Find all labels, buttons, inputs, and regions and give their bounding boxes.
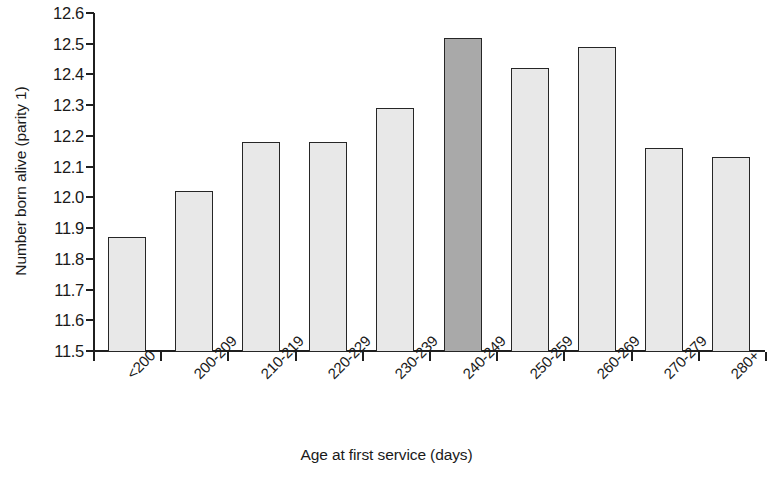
y-axis-tick-label: 11.5 (54, 342, 84, 361)
y-axis-tick-label: 12.0 (53, 188, 84, 207)
plot-area: 12.612.512.412.312.212.112.011.911.811.7… (93, 13, 765, 351)
bar (376, 108, 414, 352)
y-axis-tick (86, 73, 94, 75)
y-axis-tick (86, 12, 94, 14)
bar-chart: Number born alive (parity 1) 12.612.512.… (0, 0, 773, 478)
y-axis-tick-label: 11.7 (54, 280, 84, 299)
y-axis-tick (86, 43, 94, 45)
bar (645, 148, 683, 352)
y-axis-tick-label: 12.1 (53, 157, 84, 176)
y-axis-tick (86, 319, 94, 321)
y-axis-tick (86, 104, 94, 106)
y-axis-tick-label: 11.8 (54, 249, 84, 268)
y-axis-tick (86, 196, 94, 198)
bar (712, 157, 750, 352)
y-axis-tick (86, 258, 94, 260)
y-axis-tick-label: 12.6 (53, 4, 84, 23)
x-axis-tick (93, 352, 95, 361)
x-axis-tick (160, 352, 162, 361)
bar (578, 47, 616, 352)
bar (444, 38, 482, 352)
bar (175, 191, 213, 352)
y-axis-tick-label: 11.6 (54, 311, 84, 330)
y-axis-tick-label: 12.5 (53, 34, 84, 53)
y-axis-tick (86, 135, 94, 137)
bar (242, 142, 280, 352)
y-axis-tick (86, 166, 94, 168)
y-axis-tick (86, 289, 94, 291)
x-axis-tick (765, 352, 767, 361)
bar (309, 142, 347, 352)
y-axis-tick-label: 11.9 (54, 219, 84, 238)
y-axis-title: Number born alive (parity 1) (12, 16, 30, 346)
x-axis-title: Age at first service (days) (0, 446, 773, 464)
y-axis-tick-label: 12.2 (53, 126, 84, 145)
y-axis-tick-label: 12.3 (53, 96, 84, 115)
y-axis-tick (86, 227, 94, 229)
bar (511, 68, 549, 352)
y-axis-tick-label: 12.4 (53, 65, 84, 84)
y-axis-line (93, 13, 95, 352)
bar (108, 237, 146, 352)
